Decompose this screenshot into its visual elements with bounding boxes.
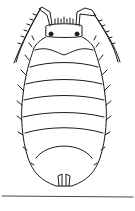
- baseline-rule: [2, 196, 133, 197]
- segments: [23, 49, 104, 158]
- isopod-drawing: [0, 0, 135, 211]
- right-antenna: [76, 8, 120, 62]
- uropods: [58, 174, 70, 186]
- body-outline: [22, 37, 107, 186]
- isopod-illustration: [0, 0, 135, 211]
